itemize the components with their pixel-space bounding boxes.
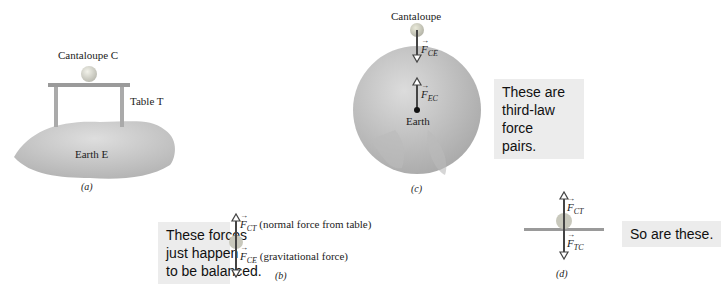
arrow-head-down: [232, 270, 240, 277]
caption-c: (c): [411, 183, 422, 194]
callout-balanced: These forces just happen to be balanced.: [158, 222, 230, 284]
caption-b: (b): [275, 270, 287, 281]
earth-label: Earth E: [75, 148, 108, 160]
force-ce-label: →FCE: [421, 43, 438, 58]
caption-a: (a): [81, 181, 93, 192]
callout-so-are-these: So are these.: [622, 221, 721, 247]
arrow-head-down: [560, 252, 568, 259]
table-label: Table T: [130, 95, 164, 107]
cantaloupe-label: Cantaloupe C: [58, 49, 118, 61]
force-ce-label-b: →FCE (gravitational force): [240, 250, 348, 265]
caption-d: (d): [556, 268, 568, 279]
earth-label-c: Earth: [406, 115, 430, 127]
cantaloupe-shape: [81, 66, 97, 82]
table-top: [48, 83, 130, 87]
earth-globe-illustration: [350, 0, 490, 200]
force-ec-label: →FEC: [421, 88, 438, 103]
force-tc-label-d: →FTC: [567, 237, 584, 252]
free-body-d: [520, 190, 610, 265]
arrow-head-up: [232, 214, 240, 221]
table-leg-left: [54, 87, 58, 127]
earth-table-illustration: [0, 0, 230, 200]
force-ct-label-d: →FCT: [567, 201, 584, 216]
cantaloupe-label-c: Cantaloupe: [391, 10, 441, 22]
force-ct-label-b: →FCT (normal force from table): [240, 218, 371, 233]
earth-center-dot: [414, 107, 420, 113]
callout-third-law: These are third-law force pairs.: [494, 79, 584, 159]
table-leg-right: [120, 87, 124, 127]
